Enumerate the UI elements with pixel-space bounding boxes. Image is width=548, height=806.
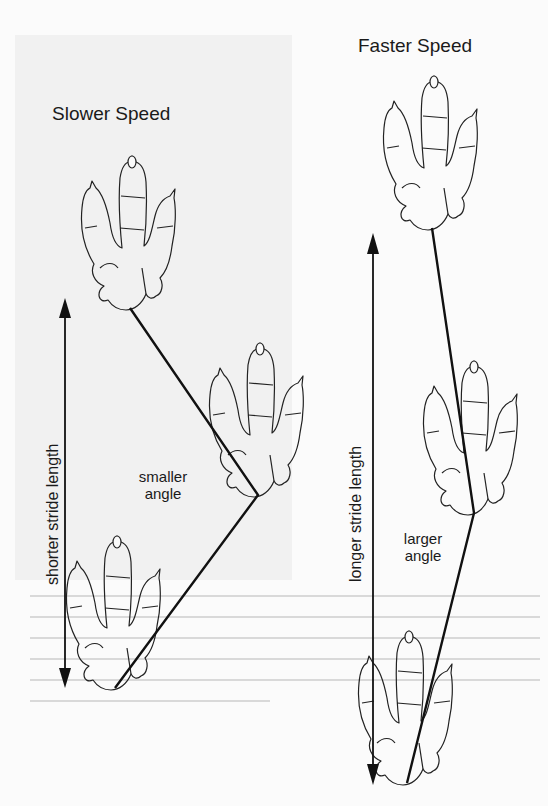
larger-angle-label: larger angle (398, 530, 448, 564)
slower-footprint-3 (67, 536, 161, 690)
smaller-angle-line2: angle (128, 485, 198, 502)
faster-speed-title: Faster Speed (358, 35, 472, 57)
shorter-stride-label: shorter stride length (44, 444, 62, 585)
smaller-angle-label: smaller angle (128, 468, 198, 502)
larger-angle-line2: angle (398, 547, 448, 564)
slower-speed-title: Slower Speed (52, 103, 170, 125)
larger-angle-line1: larger (398, 530, 448, 547)
slower-footprint-2 (210, 343, 304, 497)
smaller-angle-line1: smaller (128, 468, 198, 485)
faster-footprint-1 (384, 76, 478, 230)
slower-footprint-1 (82, 156, 176, 310)
longer-stride-label: longer stride length (347, 446, 365, 582)
